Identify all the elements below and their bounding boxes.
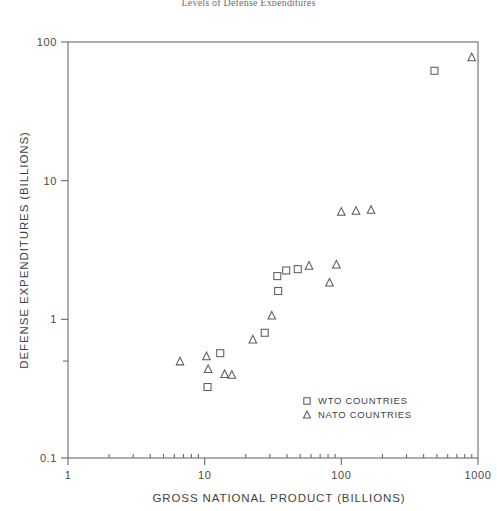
x-axis-title: GROSS NATIONAL PRODUCT (BILLIONS) xyxy=(152,492,405,504)
data-points xyxy=(176,53,475,390)
marker-triangle xyxy=(204,365,212,373)
marker-triangle xyxy=(305,262,313,270)
marker-square xyxy=(261,329,268,336)
marker-square xyxy=(294,266,301,273)
x-tick-label: 1 xyxy=(65,469,72,481)
chart-legend: WTO COUNTRIESNATO COUNTRIES xyxy=(304,395,412,420)
marker-triangle xyxy=(333,260,341,268)
y-tick-label: 10 xyxy=(44,175,57,187)
y-tick-label: 0.1 xyxy=(40,452,57,464)
marker-triangle xyxy=(326,278,334,286)
scatter-plot: 11010010000.1110100 GROSS NATIONAL PRODU… xyxy=(0,0,497,511)
series-nato-countries xyxy=(176,53,475,378)
marker-square xyxy=(274,273,281,280)
marker-triangle xyxy=(352,207,360,215)
marker-triangle xyxy=(176,357,184,365)
marker-triangle xyxy=(228,371,236,379)
figure-container: Levels of Defense Expenditures 110100100… xyxy=(0,0,497,511)
x-tick-label: 10 xyxy=(198,469,211,481)
y-axis-title: DEFENSE EXPENDITURES (BILLIONS) xyxy=(18,131,30,369)
series-wto-countries xyxy=(204,67,438,390)
plot-border xyxy=(68,42,478,458)
x-tick-label: 1000 xyxy=(465,469,492,481)
marker-triangle xyxy=(221,370,229,378)
marker-square xyxy=(217,350,224,357)
legend-label: WTO COUNTRIES xyxy=(318,395,408,406)
axis-titles: GROSS NATIONAL PRODUCT (BILLIONS)DEFENSE… xyxy=(18,131,406,504)
plot-frame xyxy=(68,42,478,458)
axis-tick-labels: 11010010000.1110100 xyxy=(37,36,492,481)
marker-triangle xyxy=(367,206,375,214)
marker-triangle xyxy=(268,311,276,319)
y-tick-label: 100 xyxy=(37,36,57,48)
marker-square xyxy=(431,67,438,74)
y-tick-label: 1 xyxy=(50,313,57,325)
legend-label: NATO COUNTRIES xyxy=(318,409,412,420)
marker-triangle xyxy=(249,335,257,343)
x-tick-label: 100 xyxy=(331,469,351,481)
marker-triangle xyxy=(468,53,476,61)
axis-ticks xyxy=(61,42,478,465)
marker-square xyxy=(275,288,282,295)
marker-square xyxy=(204,384,211,391)
marker-square xyxy=(283,267,290,274)
marker-triangle xyxy=(338,208,346,216)
marker-triangle xyxy=(304,411,311,418)
marker-square xyxy=(304,398,310,404)
marker-triangle xyxy=(203,352,211,360)
